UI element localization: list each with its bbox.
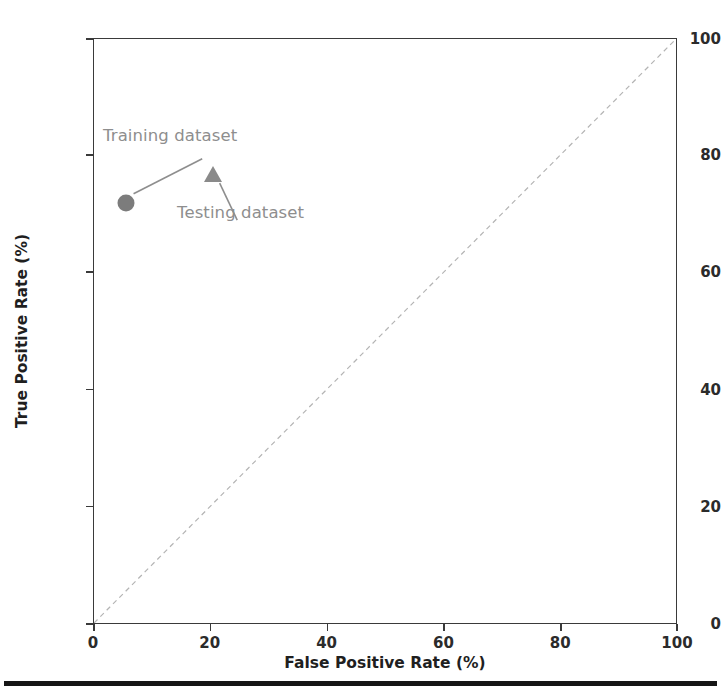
- training-leader-line: [134, 159, 203, 194]
- y-tick-label-40: 40: [665, 381, 721, 399]
- training-data-point[interactable]: [118, 195, 135, 212]
- x-tick-label-80: 80: [550, 634, 571, 652]
- y-tick-mark-60: [86, 271, 93, 273]
- x-tick-mark-60: [443, 624, 445, 631]
- x-tick-mark-100: [676, 624, 678, 631]
- y-tick-label-80: 80: [665, 146, 721, 164]
- y-tick-label-20: 20: [665, 498, 721, 516]
- testing-data-point[interactable]: [204, 166, 222, 182]
- y-tick-mark-80: [86, 154, 93, 156]
- y-tick-label-100: 100: [665, 30, 721, 48]
- x-tick-label-20: 20: [199, 634, 220, 652]
- y-tick-mark-40: [86, 389, 93, 391]
- y-tick-mark-20: [86, 506, 93, 508]
- y-tick-label-60: 60: [665, 263, 721, 281]
- bottom-divider-bar: [4, 681, 717, 686]
- y-tick-mark-0: [86, 623, 93, 625]
- x-tick-label-100: 100: [661, 634, 692, 652]
- roc-scatter-figure: Training dataset Testing dataset 0 20 40…: [0, 0, 721, 699]
- x-tick-mark-0: [93, 624, 95, 631]
- y-tick-label-0: 0: [665, 615, 721, 633]
- y-tick-mark-100: [86, 38, 93, 40]
- x-tick-label-60: 60: [433, 634, 454, 652]
- x-axis-title: False Positive Rate (%): [93, 654, 677, 672]
- x-tick-mark-40: [327, 624, 329, 631]
- y-axis-title: True Positive Rate (%): [13, 234, 31, 428]
- x-tick-mark-20: [210, 624, 212, 631]
- x-tick-label-40: 40: [316, 634, 337, 652]
- x-tick-mark-80: [560, 624, 562, 631]
- x-tick-label-0: 0: [88, 634, 98, 652]
- annotation-testing-dataset: Testing dataset: [177, 203, 304, 222]
- annotation-training-dataset: Training dataset: [103, 126, 237, 145]
